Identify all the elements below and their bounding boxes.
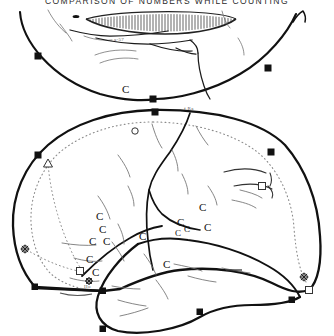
tiny-label-ho: Ho (84, 284, 91, 289)
marker-star (85, 277, 93, 285)
marker-filled-square (268, 149, 275, 156)
marker-filled-square (289, 297, 296, 304)
letter-label-c: C (86, 253, 93, 265)
marker-filled-square (150, 96, 157, 103)
tiny-label-fra: f Ra (184, 106, 194, 111)
marker-filled-square (152, 109, 159, 116)
marker-star (300, 273, 309, 282)
lower-left-flat-edge-inner (60, 293, 92, 295)
marker-open-square (77, 268, 84, 275)
marker-filled-square (35, 53, 42, 60)
marker-filled-square (197, 309, 204, 316)
marker-open-square (259, 183, 266, 190)
letter-label-c: C (89, 235, 96, 247)
hatch-band-upper-edge (86, 12, 236, 19)
dotted-inner-contour (153, 122, 306, 282)
letter-label-c: C (103, 235, 110, 247)
upper-interior-folds (70, 30, 210, 99)
letter-label-c: C (175, 228, 181, 238)
marker-filled-square (32, 284, 39, 291)
letter-label-c: C (99, 223, 106, 235)
letter-label-c: C (122, 83, 129, 95)
dotted-inner-contour (27, 250, 78, 271)
tiny-label-a57: a-57 (114, 37, 124, 42)
marker-filled-square (100, 288, 107, 295)
marker-filled-square (265, 65, 272, 72)
letter-label-c: C (199, 201, 206, 213)
upper-figure-outline (20, 12, 296, 100)
letter-label-c: C (139, 230, 146, 242)
line-drawing-canvas: a-57 C (0, 0, 334, 336)
lower-figure-group: f Ra Ho C C C C C C C C C C C C C (13, 106, 321, 333)
illustration-plate: COMPARISON OF NUMBERS WHILE COUNTING (0, 0, 334, 336)
marker-open-circle (132, 128, 138, 134)
secondary-sulcus-line (149, 190, 200, 230)
marker-star (21, 245, 30, 254)
upper-figure-group: a-57 C (20, 10, 305, 103)
letter-label-c: C (163, 258, 170, 270)
marker-open-square (306, 287, 313, 294)
central-sulcus-line (147, 113, 190, 270)
letter-label-c: C (92, 266, 99, 278)
marker-filled-square (100, 326, 107, 333)
lower-left-flat-edge (35, 288, 103, 291)
marker-filled-square (35, 152, 42, 159)
marker-open-triangle (44, 159, 53, 167)
letter-label-c: C (96, 210, 103, 222)
letter-label-c: C (204, 221, 211, 233)
letter-label-c: C (184, 224, 190, 234)
hatch-end-dot (73, 15, 80, 18)
dotted-inner-contour (48, 163, 84, 272)
